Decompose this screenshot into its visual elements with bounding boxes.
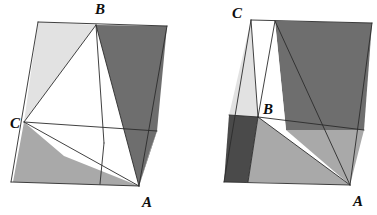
right-panel (224, 20, 372, 185)
right-panel-vertex-label-b: B (262, 101, 273, 117)
right-panel-vertex-label-a: A (352, 193, 363, 209)
left-panel-vertex-label-b: B (94, 1, 105, 17)
left-panel-vertex-label-a: A (141, 194, 152, 210)
geometry-figure-canvas: BCACBA (0, 0, 377, 215)
left-panel-vertex-label-c: C (10, 115, 21, 131)
geometry-figure-root: BCACBA (0, 0, 377, 215)
right-panel-vertex-label-c: C (232, 5, 243, 21)
region-top-dark (275, 21, 372, 130)
